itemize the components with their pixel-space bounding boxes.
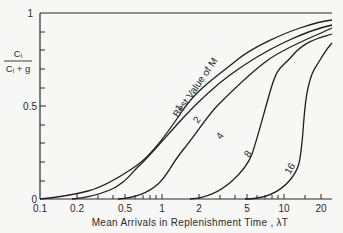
x-tick-label: 5 (244, 203, 250, 214)
curve-m-16 (245, 43, 332, 199)
x-tick-label: 10 (278, 203, 290, 214)
curve-label-2: 2 (191, 114, 203, 125)
x-tick-label: 2 (196, 203, 202, 214)
chart-canvas: 1 0.5 0 Cᵢ Cᵢ + g 0.1 0.2 0.5 1 2 5 10 2… (0, 0, 343, 233)
x-tick-label: 0.5 (118, 203, 132, 214)
x-tick-label: 20 (315, 203, 327, 214)
x-tick-labels: 0.1 0.2 0.5 1 2 5 10 20 (33, 203, 327, 214)
curve-m-4 (118, 28, 332, 199)
y-tick-label-1: 1 (27, 8, 33, 19)
x-tick-label: 1 (159, 203, 165, 214)
x-tick-label: 0.1 (33, 203, 47, 214)
x-tick-label: 0.2 (70, 203, 84, 214)
y-label-denominator: Cᵢ + g (6, 63, 30, 74)
y-axis-label: Cᵢ Cᵢ + g (4, 48, 32, 74)
curve-label-4: 4 (214, 130, 226, 141)
x-axis-label: Mean Arrivals in Replenishment Time , λT (92, 217, 289, 228)
curve-label-8: 8 (242, 148, 254, 159)
y-ticks (40, 32, 46, 181)
y-label-numerator: Cᵢ (14, 48, 23, 59)
y-tick-label-0.5: 0.5 (23, 101, 37, 112)
